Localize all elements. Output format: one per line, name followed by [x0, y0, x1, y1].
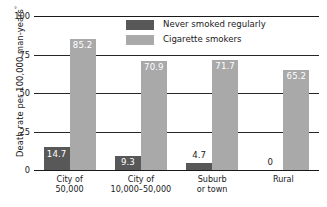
legend: Never smoked regularlyCigarette smokers — [126, 19, 266, 49]
bar-group: 14.785.2 — [44, 16, 96, 170]
bar-value-label: 4.7 — [184, 151, 214, 160]
x-category-label: Suburbor town — [177, 175, 248, 194]
legend-label: Never smoked regularly — [163, 20, 266, 29]
y-tick-label-100: 100 — [0, 12, 30, 20]
bar-value-label: 65.2 — [281, 72, 311, 81]
legend-swatch — [126, 35, 154, 45]
legend-item: Never smoked regularly — [126, 19, 266, 30]
bar — [141, 61, 167, 170]
bar-chart: Death rate per 100,000 man-years° 100755… — [0, 0, 327, 207]
legend-swatch — [126, 20, 154, 30]
bar-value-label: 9.3 — [113, 158, 143, 167]
bar — [70, 39, 96, 170]
x-category-line: or town — [177, 185, 248, 195]
y-axis-tick-labels: 1007550250 — [0, 16, 30, 170]
bar — [283, 70, 309, 170]
y-tick-label-50: 50 — [0, 89, 30, 97]
bar-value-label: 71.7 — [210, 62, 240, 71]
y-tick-label-25: 25 — [0, 128, 30, 136]
bar — [212, 60, 238, 170]
y-tick-label-75: 75 — [0, 51, 30, 59]
x-category-label: Rural — [248, 175, 319, 185]
legend-item: Cigarette smokers — [126, 34, 266, 45]
x-category-line: Rural — [248, 175, 319, 185]
y-axis-title-superscript: ° — [13, 6, 20, 9]
legend-label: Cigarette smokers — [163, 35, 242, 44]
x-category-label: City of10,000–50,000 — [105, 175, 176, 194]
bar-value-label: 70.9 — [139, 63, 169, 72]
x-category-line: 10,000–50,000 — [105, 185, 176, 195]
x-category-label: City of50,000 — [34, 175, 105, 194]
bar-value-label: 14.7 — [42, 150, 72, 159]
y-tick-label-0: 0 — [0, 166, 30, 174]
bar-value-label: 0 — [255, 158, 285, 167]
bar — [186, 163, 212, 170]
x-category-line: 50,000 — [34, 185, 105, 195]
bar-value-label: 85.2 — [68, 41, 98, 50]
x-axis-line — [34, 170, 319, 171]
